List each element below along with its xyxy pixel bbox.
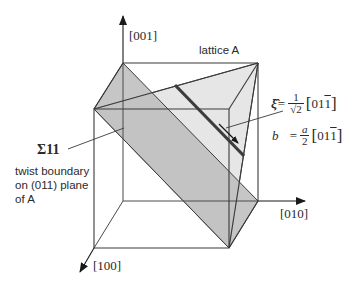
axis-100-arrow (80, 248, 94, 272)
xi-equals: = (278, 96, 285, 112)
b-denominator: 2 (300, 135, 310, 147)
b-close-bracket: ] (337, 127, 343, 144)
axis-100-label: [100] (93, 258, 121, 274)
xi-formula: ξ̂ = 1 √2 [ 01 1 ] (271, 92, 337, 115)
xi-denominator: √2 (288, 103, 304, 115)
twist-line-2: on (011) plane (15, 178, 89, 192)
lattice-a-label: lattice A (199, 44, 239, 56)
axis-001-label: [001] (129, 28, 157, 44)
xi-fraction: 1 √2 (288, 92, 304, 115)
twist-line-1: twist boundary (15, 164, 89, 178)
axis-010-label: [010] (280, 206, 308, 222)
xi-close-bracket: ] (331, 95, 337, 112)
sigma-leader-line (68, 128, 124, 149)
b-numerator: a (300, 124, 310, 135)
xi-numerator: 1 (291, 92, 301, 103)
b-fraction: a 2 (300, 124, 310, 147)
xi-symbol: ξ̂ (271, 96, 277, 112)
b-equals: = (290, 128, 297, 144)
b-symbol: b⃗ (272, 128, 289, 144)
xi-digits: 01 (311, 96, 324, 112)
twist-boundary-description: twist boundary on (011) plane of A (15, 164, 89, 206)
sigma-11-label: Σ11 (37, 142, 59, 158)
twist-line-3: of A (15, 192, 89, 206)
twist-boundary-diagram: [001] [010] [100] lattice A Σ11 twist bo… (0, 0, 351, 286)
b-digits: 01 (317, 128, 330, 144)
burgers-formula: b⃗ = a 2 [ 01 1 ] (272, 124, 342, 147)
